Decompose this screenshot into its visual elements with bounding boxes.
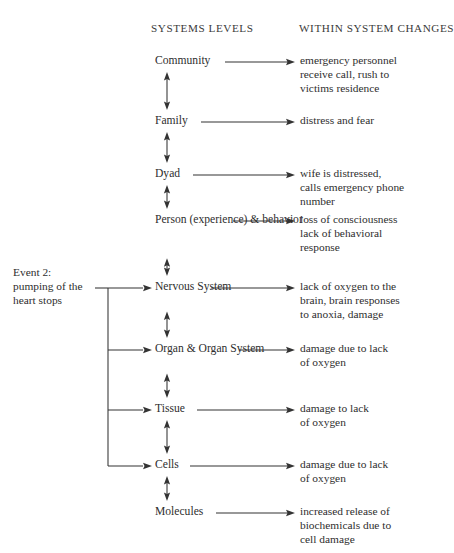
level-label: Tissue (155, 402, 185, 416)
change-text: wife is distressed, calls emergency phon… (300, 167, 450, 208)
level-label: Cells (155, 458, 179, 472)
change-text: damage due to lack of oxygen (300, 458, 450, 486)
change-text: increased release of biochemicals due to… (300, 505, 450, 546)
level-label: Person (experience) & behavior (155, 213, 303, 227)
level-label: Dyad (155, 167, 180, 181)
change-text: lack of oxygen to the brain, brain respo… (300, 280, 450, 321)
level-label: Nervous System (155, 280, 231, 294)
change-text: damage due to lack of oxygen (300, 342, 450, 370)
change-text: damage to lack of oxygen (300, 402, 450, 430)
level-label: Organ & Organ System (155, 342, 264, 356)
change-text: distress and fear (300, 114, 450, 128)
level-label: Family (155, 114, 188, 128)
change-text: emergency personnel receive call, rush t… (300, 54, 450, 95)
level-label: Molecules (155, 505, 203, 519)
change-text: loss of consciousness lack of behavioral… (300, 213, 450, 254)
level-label: Community (155, 54, 210, 68)
